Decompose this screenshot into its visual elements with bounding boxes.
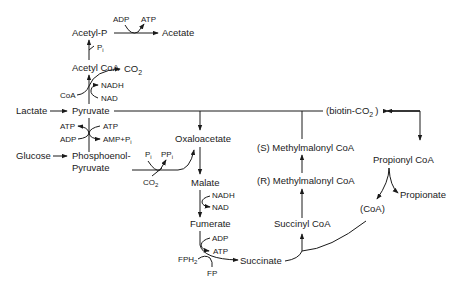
cofactor-nad-top: NAD <box>101 94 118 103</box>
cofactor-coa: CoA <box>60 91 76 100</box>
fumerate-to-succinate: ADP ATP FPH2 FP <box>178 231 238 278</box>
node-r-methylmalonyl-coa: (R) Methylmalonyl CoA <box>257 175 355 186</box>
node-succinyl-coa: Succinyl CoA <box>274 218 331 229</box>
pep-to-oxaloacetate: Pi PPi CO2 <box>132 150 194 188</box>
node-malate: Malate <box>191 177 220 188</box>
cofactor-adp-bottom: ADP <box>212 234 228 243</box>
node-biotin-co2: (biotin-CO2) <box>326 105 378 118</box>
cofactor-ppi-mid: PPi <box>161 150 173 160</box>
acetyl-coa-to-acetyl-p: Pi <box>89 40 104 60</box>
node-pep-line1: Phosphoenol- <box>72 150 131 161</box>
pi-branch <box>89 46 94 50</box>
cofactor-nad-mid: NAD <box>212 203 229 212</box>
cofactor-fp: FP <box>207 269 217 278</box>
pyruvate-pep-exchange: ATP ATP ADP AMP+Pi <box>60 118 132 152</box>
cofactor-amp-pi: AMP+Pi <box>103 135 132 145</box>
cofactor-pi-mid: Pi <box>145 150 152 160</box>
cofactor-atp-left: ATP <box>60 122 75 131</box>
node-lactate: Lactate <box>16 105 47 116</box>
lactate-to-pyruvate: Lactate Pyruvate <box>16 105 110 116</box>
node-oxaloacetate: Oxaloacetate <box>175 133 231 144</box>
cofactor-nadh-mid: NADH <box>212 191 235 200</box>
arrow-adp-atp-bottom <box>201 238 210 251</box>
cofactor-co2-mid: CO2 <box>143 178 159 188</box>
acetyl-p-to-acetate: Acetyl-P Acetate ADP ATP <box>72 15 194 38</box>
cofactor-pi-top: Pi <box>97 43 104 53</box>
arrow-propionyl-propionate <box>389 168 398 193</box>
fph2-fp-exchange <box>198 256 212 267</box>
cofactor-atp-right: ATP <box>103 122 118 131</box>
malate-to-fumerate: NADH NAD <box>200 190 235 217</box>
arrow-adp-atp-top <box>125 24 144 33</box>
node-co2-top: CO2 <box>124 63 142 76</box>
node-acetyl-p: Acetyl-P <box>72 27 107 38</box>
propionyl-branches: Propionate (CoA) <box>360 168 446 214</box>
arrow-propionyl-coa-paren <box>377 168 389 199</box>
glucose-to-pep: Glucose Phosphoenol- Pyruvate <box>16 150 131 173</box>
node-succinate: Succinate <box>240 255 282 266</box>
co2-branch <box>152 168 162 176</box>
cofactor-fph2: FPH2 <box>178 255 198 265</box>
cofactor-atp-bottom: ATP <box>213 247 228 256</box>
cofactor-adp-left: ADP <box>60 135 76 144</box>
arrow-nad-nadh-top <box>91 85 98 98</box>
node-s-methylmalonyl-coa: (S) Methylmalonyl CoA <box>257 142 355 153</box>
node-pep-line2: Pyruvate <box>72 162 110 173</box>
cofactor-nadh-top: NADH <box>101 81 124 90</box>
cofactor-atp-top: ATP <box>141 15 156 24</box>
node-coa-paren: (CoA) <box>360 203 385 214</box>
node-propionate: Propionate <box>400 189 446 200</box>
cofactor-adp-top: ADP <box>113 15 129 24</box>
arrow-nadh-nad-mid <box>202 196 210 207</box>
arrow-pi-ppi <box>148 160 166 170</box>
metabolic-pathway-diagram: Acetyl-P Acetate ADP ATP Pi Acetyl CoA C… <box>0 0 455 289</box>
node-glucose: Glucose <box>16 150 51 161</box>
node-acetate: Acetate <box>162 27 194 38</box>
node-acetyl-coa: Acetyl CoA <box>72 62 120 73</box>
node-propionyl-coa: Propionyl CoA <box>373 154 434 165</box>
node-pyruvate: Pyruvate <box>72 105 110 116</box>
node-fumerate: Fumerate <box>190 218 231 229</box>
